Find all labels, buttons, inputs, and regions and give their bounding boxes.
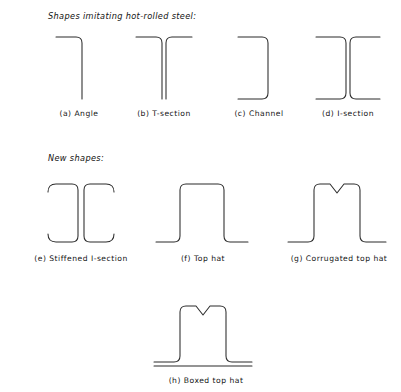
- t-section-profile-drawing: [122, 33, 206, 103]
- corrugated-top-hat-outline: [288, 184, 386, 242]
- top-hat-outline: [156, 184, 248, 242]
- shape-angle: (a) Angle: [40, 33, 118, 103]
- top-hat-profile-drawing: [148, 178, 258, 248]
- caption-corrugated-top-hat: (g) Corrugated top hat: [278, 254, 400, 263]
- group-heading-hot-rolled: Shapes imitating hot-rolled steel:: [48, 11, 196, 21]
- channel-profile-drawing: [222, 33, 296, 103]
- angle-profile-drawing: [40, 33, 118, 103]
- stiffened-i-left-channel: [48, 184, 78, 242]
- boxed-top-hat-profile-drawing: [140, 300, 272, 370]
- i-section-left-channel: [316, 37, 346, 99]
- shape-top-hat: (f) Top hat: [148, 178, 258, 248]
- shape-i-section: (d) I-section: [306, 33, 390, 103]
- caption-boxed-top-hat: (h) Boxed top hat: [140, 376, 272, 385]
- caption-channel: (c) Channel: [222, 109, 296, 118]
- caption-i-section: (d) I-section: [306, 109, 390, 118]
- t-section-left-half: [136, 37, 162, 99]
- caption-angle: (a) Angle: [40, 109, 118, 118]
- boxed-top-hat-outline: [154, 306, 252, 362]
- t-section-right-half: [166, 37, 192, 99]
- steel-sections-figure: Shapes imitating hot-rolled steel: New s…: [0, 0, 401, 392]
- channel-outline: [238, 37, 268, 99]
- stiffened-i-section-profile-drawing: [18, 178, 144, 248]
- shape-boxed-top-hat: (h) Boxed top hat: [140, 300, 272, 370]
- corrugated-top-hat-profile-drawing: [278, 178, 400, 248]
- shape-corrugated-top-hat: (g) Corrugated top hat: [278, 178, 400, 248]
- shape-stiffened-i-section: (e) Stiffened I-section: [18, 178, 144, 248]
- group-heading-new-shapes: New shapes:: [48, 153, 104, 163]
- caption-t-section: (b) T-section: [122, 109, 206, 118]
- caption-top-hat: (f) Top hat: [148, 254, 258, 263]
- stiffened-i-right-channel: [84, 184, 114, 242]
- i-section-right-channel: [350, 37, 380, 99]
- angle-outline: [56, 37, 82, 99]
- i-section-profile-drawing: [306, 33, 390, 103]
- shape-t-section: (b) T-section: [122, 33, 206, 103]
- shape-channel: (c) Channel: [222, 33, 296, 103]
- caption-stiffened-i-section: (e) Stiffened I-section: [18, 254, 144, 263]
